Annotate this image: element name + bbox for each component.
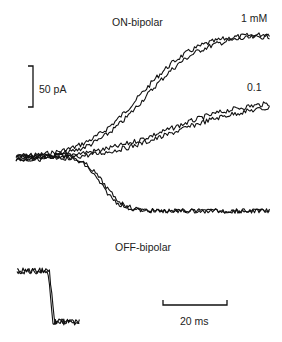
- trace-0p1-a: [16, 102, 270, 160]
- trace-inward-a: [16, 153, 270, 213]
- time-scale-bar: [163, 300, 227, 305]
- electrophysiology-figure: ON-bipolar 1 mM 0.1 50 pA OFF-bipolar 20…: [0, 0, 282, 342]
- concentration-1mM-label: 1 mM: [241, 13, 267, 24]
- on-bipolar-label: ON-bipolar: [112, 17, 163, 28]
- current-scale-label: 50 pA: [39, 84, 66, 95]
- off-bipolar-label: OFF-bipolar: [115, 242, 171, 253]
- current-scale-bar: [28, 66, 33, 107]
- traces-canvas: [0, 0, 282, 342]
- trace-1mM-a: [16, 33, 270, 158]
- trace-inward-b: [16, 155, 270, 213]
- concentration-0p1-label: 0.1: [247, 82, 262, 93]
- trace-off-a: [17, 268, 79, 325]
- time-scale-label: 20 ms: [180, 316, 209, 327]
